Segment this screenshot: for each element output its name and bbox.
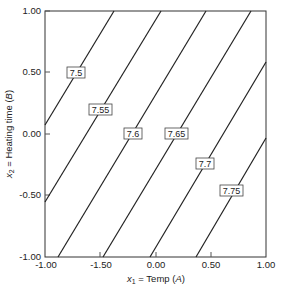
contour-line-7-75: [196, 138, 266, 257]
x-axis-title: x1 = Temp (A): [126, 273, 185, 285]
contour-label: 7.55: [92, 105, 110, 115]
contour-label: 7.5: [70, 68, 83, 78]
x-tick-label: 0.50: [202, 259, 221, 270]
x-tick-label: 1.00: [257, 259, 276, 270]
x-tick-label: 0.00: [147, 259, 166, 270]
contour-lines: [45, 11, 266, 257]
contour-label: 7.6: [127, 129, 140, 139]
y-tick-label: 0.00: [23, 128, 42, 139]
contour-label: 7.65: [168, 129, 186, 139]
contour-plot: 1.00 0.50 0.00 -0.50 -1.00 -1.00 -1.50 0…: [0, 0, 283, 285]
y-tick-label: 1.00: [23, 5, 42, 16]
contour-label: 7.75: [223, 186, 241, 196]
plot-frame: [45, 11, 266, 257]
x-tick-label: -1.00: [35, 259, 57, 270]
contour-label: 7.7: [199, 159, 212, 169]
y-axis-title: x2 = Heating time (B): [3, 90, 15, 179]
y-tick-label: 0.50: [23, 66, 42, 77]
x-axis: -1.00 -1.50 0.00 0.50 1.00: [35, 252, 275, 270]
contour-labels: 7.5 7.55 7.6 7.65 7.7 7.75: [67, 67, 243, 196]
y-tick-label: -0.50: [19, 189, 41, 200]
x-tick-label: -1.50: [90, 259, 112, 270]
